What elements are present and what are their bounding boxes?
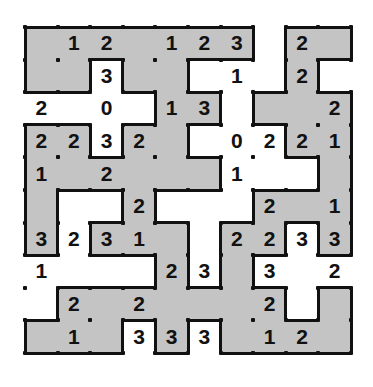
grid-cell[interactable]: 2 [253,223,286,256]
grid-cell[interactable] [221,320,254,353]
grid-cell[interactable] [25,320,58,353]
grid-cell[interactable] [286,288,319,321]
grid-cell[interactable] [90,288,123,321]
grid-cell[interactable]: 2 [318,255,351,288]
grid-cell[interactable]: 2 [123,190,156,223]
grid-cell[interactable]: 1 [221,60,254,93]
grid-cell[interactable] [318,60,351,93]
grid-cell[interactable]: 3 [253,255,286,288]
grid-cell[interactable] [253,157,286,190]
grid-cell[interactable] [221,288,254,321]
grid-cell[interactable] [188,288,221,321]
grid-cell[interactable]: 2 [58,223,91,256]
grid-cell[interactable] [155,190,188,223]
grid-cell[interactable]: 2 [90,27,123,60]
grid-cell[interactable]: 1 [25,255,58,288]
grid-cell[interactable]: 1 [221,157,254,190]
grid-cell[interactable]: 2 [286,60,319,93]
grid-cell[interactable] [155,60,188,93]
grid-cell[interactable] [123,27,156,60]
grid-cell[interactable] [155,125,188,158]
grid-cell[interactable] [188,157,221,190]
grid-cell[interactable] [123,92,156,125]
grid-cell[interactable] [90,320,123,353]
grid-cell[interactable] [318,27,351,60]
grid-cell[interactable] [123,60,156,93]
grid-cell[interactable] [286,255,319,288]
grid-cell[interactable] [155,223,188,256]
grid-cell[interactable]: 3 [188,320,221,353]
grid-cell[interactable] [90,190,123,223]
grid-cell[interactable]: 2 [90,157,123,190]
grid-cell[interactable] [286,157,319,190]
grid-cell[interactable]: 2 [286,320,319,353]
grid-cell[interactable]: 3 [123,320,156,353]
grid-cell[interactable]: 2 [286,125,319,158]
grid-cell[interactable]: 2 [286,27,319,60]
grid-cell[interactable] [318,157,351,190]
grid-cell[interactable]: 0 [221,125,254,158]
grid-cell[interactable] [58,157,91,190]
grid-cell[interactable] [188,125,221,158]
grid-cell[interactable]: 2 [123,288,156,321]
grid-cell[interactable] [90,255,123,288]
grid-cell[interactable]: 2 [318,92,351,125]
grid-cell[interactable] [318,320,351,353]
grid-cell[interactable]: 3 [318,223,351,256]
grid-cell[interactable] [221,255,254,288]
grid-cell[interactable] [58,190,91,223]
grid-cell[interactable]: 2 [25,125,58,158]
grid-cell[interactable] [253,60,286,93]
grid-cell[interactable] [58,255,91,288]
grid-cell[interactable]: 2 [221,223,254,256]
grid-cell[interactable]: 3 [286,223,319,256]
grid-cell[interactable]: 3 [188,92,221,125]
grid-cell[interactable]: 1 [25,157,58,190]
grid-cell[interactable]: 1 [318,190,351,223]
grid-cell[interactable] [155,157,188,190]
grid-cell[interactable]: 3 [90,125,123,158]
grid-cell[interactable]: 2 [188,27,221,60]
grid-cell[interactable]: 1 [123,223,156,256]
grid-cell[interactable]: 0 [90,92,123,125]
grid-cell[interactable] [253,27,286,60]
grid-cell[interactable]: 3 [25,223,58,256]
grid-cell[interactable] [188,190,221,223]
grid-cell[interactable] [253,92,286,125]
grid-cell[interactable] [286,190,319,223]
grid-cell[interactable] [58,60,91,93]
grid-cell[interactable] [123,157,156,190]
grid-cell[interactable]: 3 [221,27,254,60]
grid-cell[interactable] [123,255,156,288]
grid-cell[interactable]: 1 [318,125,351,158]
grid-cell[interactable] [188,223,221,256]
grid-cell[interactable] [25,288,58,321]
grid-cell[interactable]: 2 [25,92,58,125]
grid-cell[interactable] [25,27,58,60]
grid-cell[interactable] [58,92,91,125]
grid-cell[interactable]: 2 [253,190,286,223]
grid-cell[interactable] [286,92,319,125]
grid-cell[interactable]: 3 [188,255,221,288]
grid-cell[interactable]: 1 [58,320,91,353]
grid-cell[interactable]: 1 [155,92,188,125]
grid-cell[interactable]: 2 [253,125,286,158]
grid-cell[interactable] [318,288,351,321]
grid-cell[interactable]: 2 [58,288,91,321]
grid-cell[interactable]: 1 [155,27,188,60]
grid-cell[interactable]: 2 [253,288,286,321]
grid-cell[interactable] [25,190,58,223]
grid-cell[interactable] [188,60,221,93]
grid-cell[interactable] [155,288,188,321]
grid-cell[interactable]: 1 [58,27,91,60]
grid-cell[interactable] [221,190,254,223]
grid-cell[interactable] [25,60,58,93]
grid-cell[interactable]: 2 [58,125,91,158]
grid-cell[interactable]: 3 [90,223,123,256]
grid-cell[interactable]: 1 [253,320,286,353]
grid-cell[interactable]: 3 [90,60,123,93]
grid-cell[interactable] [221,92,254,125]
grid-cell[interactable]: 3 [155,320,188,353]
grid-cell[interactable]: 2 [123,125,156,158]
grid-cell[interactable]: 2 [155,255,188,288]
